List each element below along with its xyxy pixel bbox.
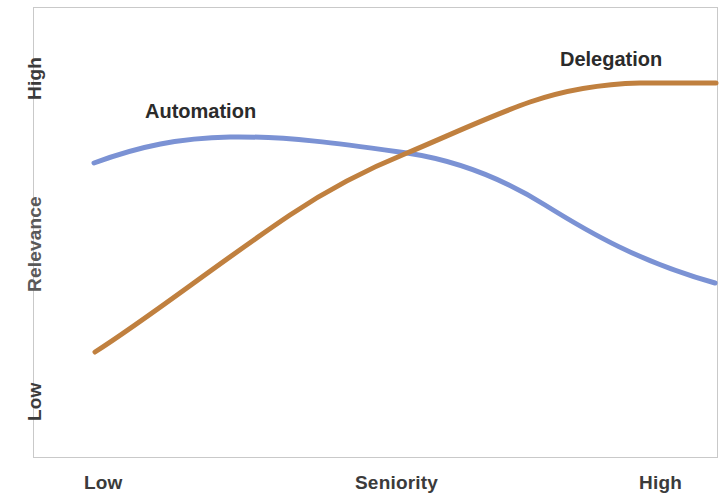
y-axis-low-label: Low <box>24 382 46 421</box>
series-label-delegation: Delegation <box>560 48 662 71</box>
x-axis-title: Seniority <box>355 472 438 494</box>
series-label-automation: Automation <box>145 100 256 123</box>
x-axis-high-label: High <box>639 472 682 494</box>
x-axis-low-label: Low <box>84 472 123 494</box>
y-axis-high-label: High <box>24 57 46 100</box>
y-axis-title: Relevance <box>24 196 46 292</box>
plot-area-frame <box>33 7 718 458</box>
relevance-vs-seniority-chart: High Relevance Low Low Seniority High Au… <box>0 0 722 503</box>
